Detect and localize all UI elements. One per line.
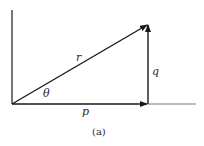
vector-triangle-diagram: r q θ p (a)	[0, 0, 204, 146]
label-r: r	[76, 52, 81, 63]
label-theta: θ	[43, 88, 50, 99]
vector-r-arrow	[12, 25, 147, 104]
label-p: p	[82, 106, 89, 117]
figure-caption: (a)	[92, 127, 106, 137]
diagram-svg	[0, 0, 204, 146]
label-q: q	[152, 66, 159, 77]
